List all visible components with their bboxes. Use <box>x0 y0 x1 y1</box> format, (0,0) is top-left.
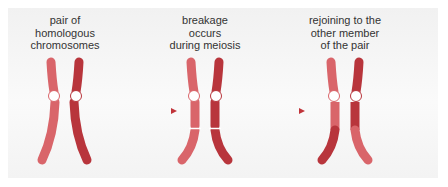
centromere-icon <box>329 91 340 102</box>
centromere-icon <box>49 91 60 102</box>
chromosome-left <box>42 62 60 160</box>
stage-1-chromosome-pair <box>42 62 87 160</box>
chromosome-right <box>71 62 88 160</box>
chromosome-right-recombined <box>351 62 369 160</box>
chromosome-diagram <box>0 0 448 187</box>
chromosome-left-broken <box>182 62 201 160</box>
stage-3-chromosome-pair <box>322 62 368 160</box>
centromere-icon <box>189 91 200 102</box>
chromosome-right-broken <box>209 62 228 160</box>
arrow-1-icon <box>100 108 177 114</box>
centromere-icon <box>71 91 82 102</box>
centromere-icon <box>211 91 222 102</box>
arrow-2-icon <box>238 108 305 114</box>
stage-2-chromosome-pair <box>182 62 228 160</box>
centromere-icon <box>351 91 362 102</box>
chromosome-left-recombined <box>322 62 340 160</box>
